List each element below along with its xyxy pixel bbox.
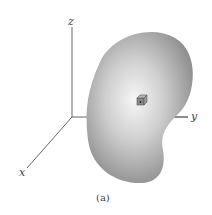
kidney-body xyxy=(87,32,193,183)
diagram-canvas xyxy=(0,0,212,215)
x-axis-label: x xyxy=(19,167,25,178)
y-axis-label: y xyxy=(191,111,197,122)
z-axis-label: z xyxy=(68,16,74,27)
figure-caption: (a) xyxy=(96,193,110,203)
volume-element-cube xyxy=(137,95,147,105)
x-axis xyxy=(27,117,72,168)
